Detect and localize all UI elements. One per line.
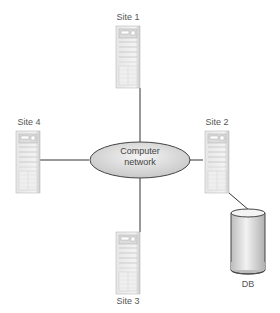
- server-site4-icon: [16, 131, 40, 193]
- network-diagram: Site 1 Site 2 Site 3 Site 4 DB Computer …: [0, 0, 280, 313]
- site2-label: Site 2: [205, 117, 228, 127]
- site4-label: Site 4: [17, 117, 40, 127]
- network-label-line2: network: [100, 157, 180, 168]
- db-label: DB: [242, 279, 255, 289]
- link-db: [229, 193, 250, 211]
- site1-label: Site 1: [116, 12, 139, 22]
- server-site1-icon: [116, 26, 140, 88]
- network-label-line1: Computer: [100, 146, 180, 157]
- server-site2-icon: [205, 131, 229, 193]
- computer-network-label: Computer network: [100, 146, 180, 168]
- server-site3-icon: [116, 232, 140, 294]
- database-cylinder-icon: [231, 209, 265, 274]
- site3-label: Site 3: [116, 296, 139, 306]
